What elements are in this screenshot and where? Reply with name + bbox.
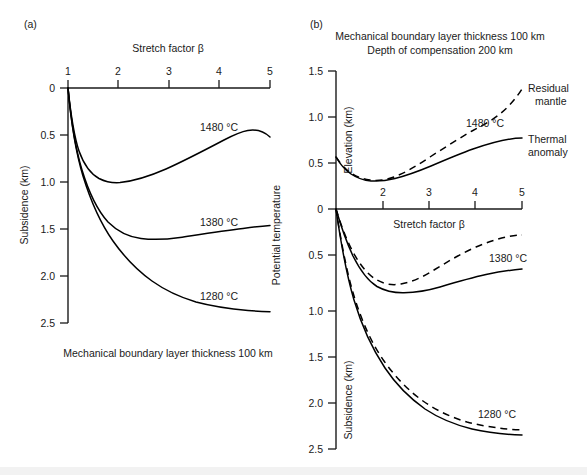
- panel-a-label: (a): [24, 18, 37, 30]
- panel-a-curve-label-1480: 1480 °C: [200, 121, 238, 133]
- panel-b-y-label-15u: 1.5: [308, 65, 323, 77]
- panel-a-right-axis-title: Potential temperature: [270, 185, 282, 286]
- panel-a-y-tick-label-05: 0.5: [40, 129, 55, 141]
- panel-b-curve-1280-thermal: [336, 209, 522, 435]
- panel-b-y-label-05d: 0.5: [308, 249, 323, 261]
- panel-a-curve-1280: [68, 88, 270, 312]
- panel-b-curve-label-1380: 1380 °C: [489, 252, 527, 264]
- panel-b-label-residual-mantle-line2: mantle: [535, 95, 567, 107]
- panel-b: (b) Mechanical boundary layer thickness …: [308, 18, 568, 455]
- panel-b-curve-1280-residual: [336, 209, 522, 430]
- panel-b-label-thermal-anomaly-line1: Thermal: [528, 133, 567, 145]
- panel-a-curve-label-1380: 1380 °C: [200, 216, 238, 228]
- panel-b-y-label-10d: 1.0: [308, 305, 323, 317]
- bottom-rule: [0, 467, 587, 475]
- panel-b-title-line1: Mechanical boundary layer thickness 100 …: [335, 30, 545, 42]
- panel-b-curve-1480-thermal: [336, 138, 522, 181]
- panel-b-y-label-20d: 2.0: [308, 397, 323, 409]
- figure-canvas: (a) Stretch factor β 1 2 3 4 5 0 0.: [0, 0, 587, 475]
- panel-b-x-label-3: 3: [426, 186, 432, 198]
- panel-b-y-label-25d: 2.5: [308, 443, 323, 455]
- panel-a-y-tick-label-25: 2.5: [40, 317, 55, 329]
- panel-a-y-tick-label-0: 0: [49, 82, 55, 94]
- panel-a-top-axis-title: Stretch factor β: [132, 42, 203, 54]
- panel-a-x-tick-label-1: 1: [65, 65, 71, 77]
- panel-a-x-tick-label-3: 3: [166, 65, 172, 77]
- panel-a-x-tick-label-5: 5: [267, 65, 273, 77]
- panel-b-label: (b): [310, 18, 323, 30]
- panel-a-y-axis-title: Subsidence (km): [18, 166, 30, 245]
- panel-a-curve-label-1280: 1280 °C: [200, 290, 238, 302]
- panel-b-y-axis-title-upper: Elevation (km): [342, 106, 354, 173]
- panel-b-y-axis-title-lower: Subsidence (km): [342, 361, 354, 440]
- panel-a-caption: Mechanical boundary layer thickness 100 …: [63, 347, 273, 359]
- panel-a-curve-1480-path: [68, 88, 270, 183]
- panel-b-x-label-5: 5: [519, 186, 525, 198]
- panel-b-x-axis-title: Stretch factor β: [393, 218, 464, 230]
- panel-b-x-label-4: 4: [472, 186, 478, 198]
- panel-b-x-label-2: 2: [380, 186, 386, 198]
- panel-b-curve-label-1480: 1480 °C: [466, 117, 504, 129]
- panel-a-x-tick-label-4: 4: [216, 65, 222, 77]
- panel-b-label-thermal-anomaly-line2: anomaly: [528, 146, 568, 158]
- panel-a-y-tick-label-20: 2.0: [40, 270, 55, 282]
- panel-b-y-label-05u: 0.5: [308, 157, 323, 169]
- panel-a-y-tick-label-10: 1.0: [40, 176, 55, 188]
- panel-b-y-label-0: 0: [317, 203, 323, 215]
- panel-b-curve-label-1280: 1280 °C: [478, 408, 516, 420]
- panel-a-x-tick-label-2: 2: [115, 65, 121, 77]
- panel-b-y-label-15d: 1.5: [308, 351, 323, 363]
- figure-root: (a) Stretch factor β 1 2 3 4 5 0 0.: [0, 0, 587, 475]
- panel-a-y-tick-label-15: 1.5: [40, 223, 55, 235]
- panel-b-label-residual-mantle-line1: Residual: [528, 82, 569, 94]
- panel-a: (a) Stretch factor β 1 2 3 4 5 0 0.: [18, 18, 282, 359]
- panel-b-title-line2: Depth of compensation 200 km: [367, 44, 513, 56]
- panel-b-y-label-10u: 1.0: [308, 111, 323, 123]
